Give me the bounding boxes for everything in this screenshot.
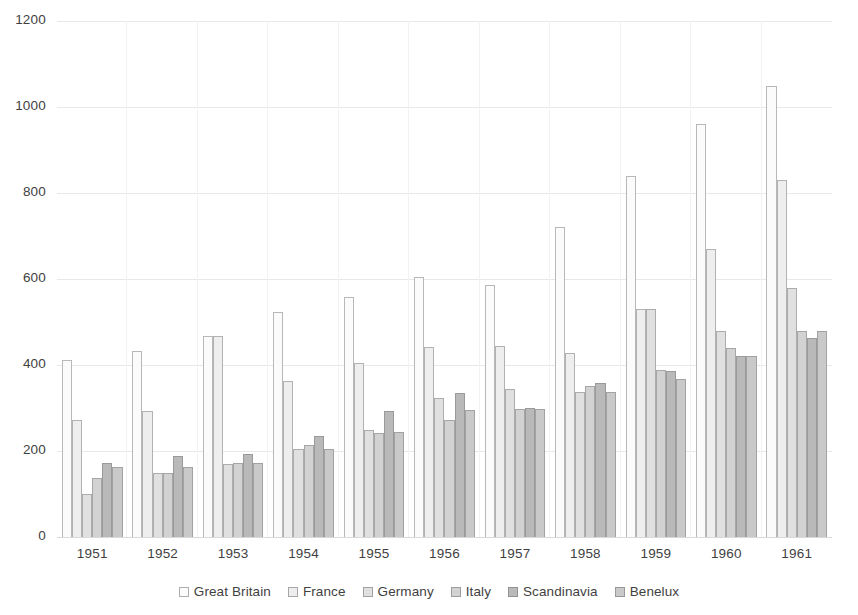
legend-label: Scandinavia <box>523 584 598 599</box>
bar <box>203 336 213 537</box>
bar <box>142 411 152 537</box>
bar <box>787 288 797 537</box>
legend-label: Italy <box>466 584 491 599</box>
legend-item[interactable]: Germany <box>363 584 434 599</box>
y-tick-label: 800 <box>23 184 46 199</box>
bar <box>394 432 404 537</box>
bar <box>726 348 736 537</box>
bar <box>314 436 324 537</box>
bar <box>777 180 787 537</box>
bar <box>173 456 183 537</box>
bar <box>646 309 656 537</box>
bar <box>223 464 233 537</box>
bar <box>324 449 334 537</box>
bar-group <box>57 21 127 537</box>
legend-label: Germany <box>378 584 434 599</box>
bar <box>666 371 676 537</box>
bar-group <box>762 21 832 537</box>
bar <box>555 227 565 537</box>
legend-swatch-icon <box>179 587 189 597</box>
bars <box>555 21 616 537</box>
legend-swatch-icon <box>615 587 625 597</box>
x-tick-label: 1952 <box>127 546 197 561</box>
legend-item[interactable]: Benelux <box>615 584 680 599</box>
bar <box>163 473 173 538</box>
legend-item[interactable]: France <box>288 584 346 599</box>
bar-group <box>691 21 761 537</box>
bars <box>696 21 757 537</box>
bar-group <box>339 21 409 537</box>
bar <box>384 411 394 537</box>
legend-label: Great Britain <box>194 584 271 599</box>
bar <box>72 420 82 537</box>
bar <box>525 408 535 537</box>
bar <box>283 381 293 537</box>
x-tick-label: 1951 <box>57 546 127 561</box>
bar <box>626 176 636 537</box>
bar <box>374 433 384 537</box>
bar <box>797 331 807 537</box>
legend-label: France <box>303 584 346 599</box>
bar <box>293 449 303 537</box>
legend-swatch-icon <box>508 587 518 597</box>
bars <box>344 21 405 537</box>
bar-group <box>480 21 550 537</box>
bars <box>414 21 475 537</box>
bar <box>636 309 646 537</box>
bar <box>807 338 817 537</box>
bar <box>676 379 686 537</box>
bars <box>273 21 334 537</box>
bar <box>62 360 72 537</box>
bar <box>585 386 595 537</box>
plot-area <box>57 21 832 537</box>
bar <box>495 346 505 537</box>
bar <box>515 409 525 537</box>
bar <box>92 478 102 537</box>
gridline <box>57 537 832 538</box>
bar <box>364 430 374 538</box>
legend-item[interactable]: Great Britain <box>179 584 271 599</box>
bars <box>766 21 827 537</box>
bar-group <box>550 21 620 537</box>
bar-group <box>198 21 268 537</box>
bars <box>203 21 264 537</box>
bar <box>736 356 746 537</box>
bar <box>102 463 112 537</box>
bar <box>535 409 545 537</box>
x-tick-label: 1958 <box>550 546 620 561</box>
bar <box>233 463 243 537</box>
y-tick-label: 0 <box>38 528 46 543</box>
legend-item[interactable]: Scandinavia <box>508 584 598 599</box>
y-tick-label: 1200 <box>15 12 46 27</box>
bar-groups <box>57 21 832 537</box>
legend-swatch-icon <box>288 587 298 597</box>
legend-item[interactable]: Italy <box>451 584 491 599</box>
bar <box>595 383 605 537</box>
bar-group <box>621 21 691 537</box>
x-tick-label: 1955 <box>339 546 409 561</box>
bar <box>606 392 616 537</box>
bars <box>62 21 123 537</box>
y-tick-label: 400 <box>23 356 46 371</box>
x-tick-label: 1953 <box>198 546 268 561</box>
bar-group <box>127 21 197 537</box>
bar <box>354 363 364 537</box>
bar <box>444 420 454 537</box>
bar-chart: 120010008006004002000 195119521953195419… <box>0 0 858 615</box>
bars <box>626 21 687 537</box>
bar <box>183 467 193 537</box>
bar-group <box>409 21 479 537</box>
bar <box>575 392 585 537</box>
x-tick-label: 1961 <box>762 546 832 561</box>
bar <box>304 445 314 537</box>
x-tick-label: 1957 <box>480 546 550 561</box>
chart-legend: Great BritainFranceGermanyItalyScandinav… <box>0 584 858 599</box>
bar <box>434 398 444 537</box>
bar <box>817 331 827 537</box>
bar <box>696 124 706 537</box>
bar <box>414 277 424 537</box>
bar <box>716 331 726 537</box>
bar <box>746 356 756 537</box>
bar <box>273 312 283 537</box>
bars <box>132 21 193 537</box>
